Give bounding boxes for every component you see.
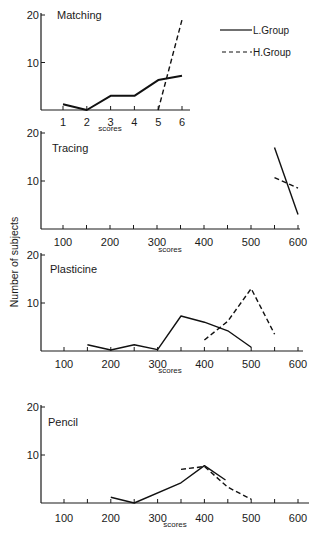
x-axis-label: scores (158, 245, 182, 254)
legend-item-h-group: H.Group (222, 47, 291, 58)
legend: L.Group H.Group (220, 25, 291, 58)
x-tick-label: 100 (55, 512, 73, 524)
x-tick-label: 6 (179, 116, 185, 128)
x-tick-label: 400 (195, 236, 213, 248)
panel-title: Pencil (48, 416, 78, 428)
x-tick-label: 200 (102, 512, 120, 524)
x-axis-label: scores (98, 124, 122, 133)
x-tick-label: 2 (84, 116, 90, 128)
legend-item-l-group: L.Group (220, 25, 290, 36)
panel-title: Matching (57, 9, 102, 21)
panel-pencil: 1020100200300400500600scoresPencil (27, 401, 309, 529)
legend-label-l-group: L.Group (253, 25, 290, 36)
series-h-group (158, 20, 182, 110)
x-tick-label: 100 (55, 358, 73, 370)
x-tick-label: 600 (289, 236, 307, 248)
figure: 1020123456scoresMatching1020100200300400… (0, 0, 325, 538)
y-tick-label: 10 (27, 57, 39, 69)
x-tick-label: 500 (242, 236, 260, 248)
series-l-group (275, 147, 299, 214)
y-tick-label: 20 (27, 127, 39, 139)
series-h-group (204, 289, 274, 340)
series-l-group (87, 316, 251, 350)
panel-plasticine: 1020100200300400500600scoresPlasticine (27, 249, 307, 375)
panels: 1020123456scoresMatching1020100200300400… (27, 9, 309, 529)
y-tick-label: 10 (27, 449, 39, 461)
y-tick-label: 20 (27, 401, 39, 413)
y-axis-label: Number of subjects (8, 217, 20, 307)
y-tick-label: 10 (27, 175, 39, 187)
panel-title: Plasticine (50, 263, 97, 275)
x-tick-label: 600 (289, 512, 307, 524)
x-tick-label: 500 (242, 358, 260, 370)
panel-matching: 1020123456scoresMatching (27, 9, 190, 133)
x-axis-label: scores (163, 520, 187, 529)
chart-canvas: 1020123456scoresMatching1020100200300400… (0, 0, 325, 538)
y-tick-label: 10 (27, 297, 39, 309)
x-tick-label: 4 (131, 116, 137, 128)
x-tick-label: 200 (102, 358, 120, 370)
y-tick-label: 20 (27, 249, 39, 261)
x-tick-label: 200 (101, 236, 119, 248)
x-tick-label: 400 (195, 358, 213, 370)
x-tick-label: 600 (289, 358, 307, 370)
x-axis-label: scores (158, 366, 182, 375)
x-tick-label: 500 (242, 512, 260, 524)
panel-title: Tracing (52, 142, 88, 154)
y-tick-label: 20 (27, 9, 39, 21)
legend-label-h-group: H.Group (253, 47, 291, 58)
x-tick-label: 1 (60, 116, 66, 128)
series-l-group (111, 466, 226, 503)
x-tick-label: 100 (54, 236, 72, 248)
series-l-group (63, 76, 182, 110)
x-tick-label: 400 (195, 512, 213, 524)
x-tick-label: 5 (155, 116, 161, 128)
series-h-group (181, 467, 251, 500)
panel-tracing: 1020100200300400500600scoresTracing (27, 127, 307, 254)
